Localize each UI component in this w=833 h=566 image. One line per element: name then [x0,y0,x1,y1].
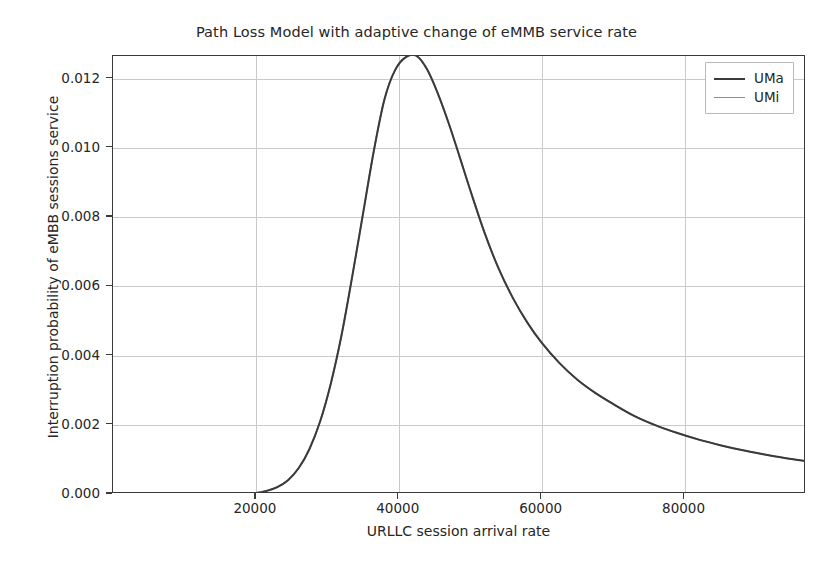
series-line-uma [113,56,805,493]
y-axis-label: Interruption probability of eMBB session… [45,17,61,517]
x-tick-mark-0 [254,493,255,499]
legend-line-swatch-uma [714,78,745,80]
plot-area [112,55,805,493]
y-tick-label-0: 0.000 [38,485,100,501]
legend-label-umi: UMi [754,91,779,105]
x-tick-label-1: 40000 [338,500,458,516]
chart-legend[interactable]: UMaUMi [705,62,794,114]
x-tick-mark-2 [540,493,541,499]
y-tick-label-3: 0.006 [38,277,100,293]
x-tick-label-0: 20000 [195,500,315,516]
y-tick-label-5: 0.010 [38,139,100,155]
legend-item-uma[interactable]: UMa [714,69,784,88]
x-axis-label: URLLC session arrival rate [112,523,805,539]
x-tick-mark-3 [683,493,684,499]
x-tick-label-3: 80000 [624,500,744,516]
chart-title: Path Loss Model with adaptive change of … [0,24,833,40]
series-line-umi [113,56,805,493]
legend-line-swatch-umi [714,97,745,98]
x-tick-mark-1 [397,493,398,499]
y-tick-label-6: 0.012 [38,70,100,86]
legend-label-uma: UMa [754,72,784,86]
data-curves [113,56,805,493]
chart-figure: Path Loss Model with adaptive change of … [0,0,833,566]
x-tick-label-2: 60000 [481,500,601,516]
legend-item-umi[interactable]: UMi [714,88,784,107]
y-tick-label-2: 0.004 [38,347,100,363]
y-tick-label-4: 0.008 [38,208,100,224]
y-tick-label-1: 0.002 [38,416,100,432]
